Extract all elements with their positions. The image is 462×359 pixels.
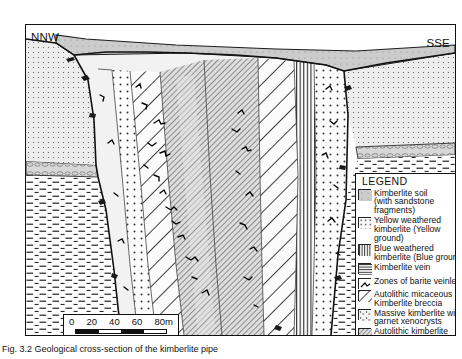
figure-page: NNW SSE 0 20 40 60 80m LEGEND Kimberlite…: [0, 0, 462, 359]
figure-caption: Fig. 3.2 Geological cross-section of the…: [2, 344, 460, 354]
legend-label: Autolithic kimberlitebreccia: [374, 327, 448, 336]
legend-label: Yellow weatheredkimberlite (Yellow groun…: [374, 216, 456, 243]
legend-swatch-autolithic-micaceous-breccia: [358, 290, 371, 301]
legend-swatch-massive-kimberlite-garnet: [358, 309, 371, 320]
legend-label: Zones of barite veinlets: [374, 277, 456, 286]
direction-label-sse: SSE: [426, 37, 450, 49]
scale-tick-80: 80m: [154, 316, 172, 327]
legend-swatch-blue-weathered-kimberlite: [358, 244, 371, 255]
scale-tick-0: 0: [69, 316, 74, 327]
legend-item-barite-veinlets: Zones of barite veinlets: [358, 277, 456, 289]
legend-item-kimberlite-soil: Kimberlite soil(with sandstone fragments…: [358, 188, 456, 215]
legend-swatch-kimberlite-vein: [358, 263, 371, 274]
scale-tick-40: 40: [109, 316, 120, 327]
legend-item-kimberlite-vein: Kimberlite vein: [358, 262, 456, 274]
legend-swatch-yellow-weathered-kimberlite: [358, 217, 371, 228]
legend-item-yellow-weathered-kimberlite: Yellow weatheredkimberlite (Yellow groun…: [358, 216, 456, 243]
legend-swatch-autolithic-kimberlite-breccia: [358, 328, 371, 336]
scale-tick-20: 20: [86, 316, 97, 327]
legend-item-blue-weathered-kimberlite: Blue weatheredkimberlite (Blue ground): [358, 243, 456, 261]
scale-tick-60: 60: [132, 316, 143, 327]
legend-item-massive-kimberlite-garnet: Massive kimberlite withgarnet xenocrysts: [358, 308, 456, 326]
legend-item-autolithic-micaceous-breccia: Autolithic micaceousKimberlite breccia: [358, 289, 456, 307]
scale-tick-labels: 0 20 40 60 80m: [69, 316, 173, 327]
legend-swatch-barite-veinlets: [358, 278, 371, 289]
scale-bar: 0 20 40 60 80m: [63, 314, 179, 336]
direction-label-nnw: NNW: [31, 31, 59, 43]
legend-label: Blue weatheredkimberlite (Blue ground): [374, 243, 456, 261]
legend-swatch-kimberlite-soil: [358, 189, 371, 200]
legend-box: LEGEND Kimberlite soil(with sandstone fr…: [355, 173, 456, 336]
legend-label: Autolithic micaceousKimberlite breccia: [374, 289, 452, 307]
legend-items: Kimberlite soil(with sandstone fragments…: [358, 188, 456, 336]
scale-bar-graphic: [75, 329, 167, 334]
legend-label: Kimberlite soil(with sandstone fragments…: [374, 188, 456, 215]
legend-label: Kimberlite vein: [374, 262, 430, 271]
legend-item-autolithic-kimberlite-breccia: Autolithic kimberlitebreccia: [358, 327, 456, 336]
cross-section-figure: NNW SSE 0 20 40 60 80m LEGEND Kimberlite…: [25, 24, 456, 336]
legend-title: LEGEND: [358, 175, 456, 187]
legend-label: Massive kimberlite withgarnet xenocrysts: [374, 308, 456, 326]
